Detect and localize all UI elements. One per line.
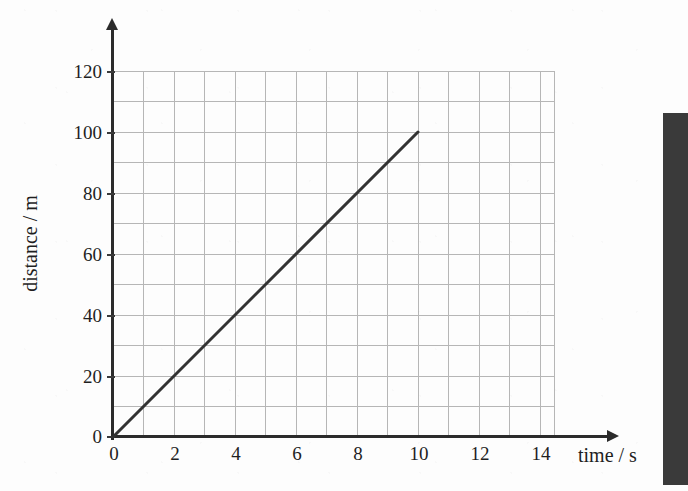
gridline-horizontal [113, 345, 555, 346]
gridline-vertical [143, 71, 144, 437]
scan-edge-panel [663, 113, 688, 485]
gridline-horizontal [113, 162, 555, 163]
x-tick-label: 2 [153, 444, 197, 463]
y-axis-title: distance / m [19, 169, 42, 319]
x-tick-label: 14 [519, 444, 563, 463]
gridline-horizontal [113, 254, 555, 255]
y-tick-mark [107, 132, 115, 134]
y-tick-label: 40 [46, 306, 102, 325]
y-axis-arrow-icon [106, 18, 118, 30]
y-tick-label: 20 [46, 367, 102, 386]
y-tick-labels: 120 100 80 60 40 20 0 [40, 0, 102, 491]
y-tick-mark [107, 193, 115, 195]
gridline-vertical [540, 71, 541, 437]
gridline-vertical [235, 71, 236, 437]
gridline-horizontal [113, 223, 555, 224]
x-tick-label: 6 [275, 444, 319, 463]
gridline-vertical [296, 71, 297, 437]
gridline-vertical [509, 71, 510, 437]
gridline-vertical [479, 71, 480, 437]
gridline-horizontal [113, 406, 555, 407]
plot-area [113, 71, 555, 437]
gridline-horizontal [113, 315, 555, 316]
gridline-vertical [554, 71, 555, 437]
y-tick-label: 60 [46, 245, 102, 264]
x-tick-label: 10 [397, 444, 441, 463]
x-tick-label: 4 [214, 444, 258, 463]
x-axis-title: time / s [578, 444, 637, 467]
gridline-vertical [418, 71, 419, 437]
gridline-vertical [326, 71, 327, 437]
x-axis-line [111, 435, 611, 438]
y-tick-mark [107, 436, 115, 438]
gridline-vertical [265, 71, 266, 437]
gridline-horizontal [113, 71, 555, 72]
y-tick-label: 100 [46, 123, 102, 142]
y-tick-mark [107, 254, 115, 256]
gridline-horizontal [113, 376, 555, 377]
gridline-vertical [387, 71, 388, 437]
gridline-vertical [174, 71, 175, 437]
x-axis-arrow-icon [607, 430, 619, 442]
x-tick-label: 12 [458, 444, 502, 463]
gridline-horizontal [113, 193, 555, 194]
x-tick-label: 0 [92, 444, 136, 463]
gridline-vertical [204, 71, 205, 437]
x-tick-label: 8 [336, 444, 380, 463]
gridline-vertical [357, 71, 358, 437]
chart-page: 120 100 80 60 40 20 0 0 2 4 6 8 10 12 14… [0, 0, 688, 491]
y-tick-mark [107, 315, 115, 317]
gridline-horizontal [113, 284, 555, 285]
y-tick-mark [107, 376, 115, 378]
y-tick-label: 80 [46, 184, 102, 203]
y-tick-label: 120 [46, 62, 102, 81]
gridline-vertical [448, 71, 449, 437]
gridline-horizontal [113, 101, 555, 102]
gridline-horizontal [113, 132, 555, 133]
y-tick-mark [107, 71, 115, 73]
